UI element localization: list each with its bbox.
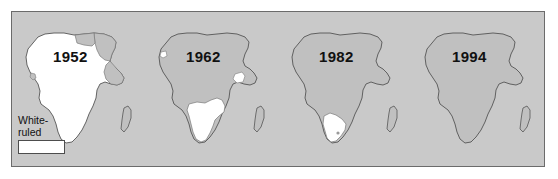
madagascar-1952	[121, 106, 131, 132]
madagascar-1962	[254, 106, 264, 132]
map-1994: 1994	[411, 12, 544, 166]
maps-panel: 1952 1962	[11, 11, 545, 167]
legend-swatch-white-ruled	[18, 140, 65, 154]
africa-decolonisation-figure: 1952 1962	[0, 0, 558, 179]
africa-outline-1994	[425, 33, 523, 143]
madagascar-1994	[520, 106, 530, 132]
map-1962: 1962	[145, 12, 278, 166]
madagascar-1982	[387, 106, 397, 132]
map-1982: 1982	[278, 12, 411, 166]
region-liberia-1952	[30, 73, 36, 80]
map-1982-svg	[278, 12, 411, 166]
map-1994-svg	[411, 12, 544, 166]
map-1962-svg	[145, 12, 278, 166]
legend: White- ruled	[18, 115, 70, 161]
region-lesotho-1982	[336, 131, 339, 134]
legend-label: White- ruled	[18, 115, 70, 138]
